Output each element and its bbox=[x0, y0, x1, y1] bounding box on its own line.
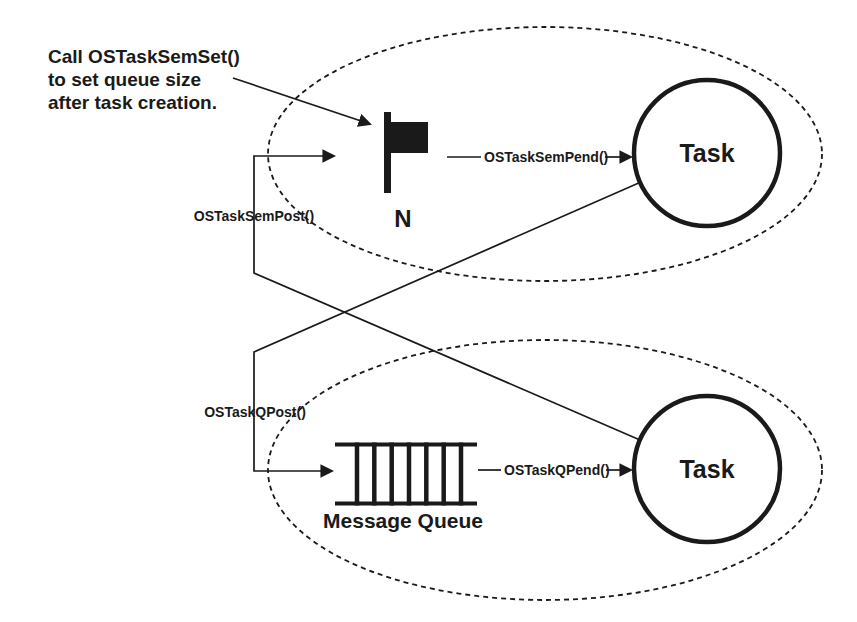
sem-post-connector bbox=[254, 156, 707, 469]
flag-body bbox=[391, 122, 428, 153]
flag-icon bbox=[384, 112, 428, 193]
diagram-svg: Call OSTaskSemSet() to set queue size af… bbox=[0, 0, 857, 622]
queue-slots bbox=[357, 443, 461, 506]
callout-text-line2: to set queue size bbox=[48, 69, 201, 90]
queue-post-connector bbox=[254, 153, 707, 471]
sem-post-label: OSTaskSemPost() bbox=[194, 208, 314, 224]
callout-arrow bbox=[233, 78, 370, 124]
top-task-label: Task bbox=[679, 139, 734, 167]
diagram: Call OSTaskSemSet() to set queue size af… bbox=[0, 0, 857, 622]
bottom-task-label: Task bbox=[679, 455, 734, 483]
message-queue-label: Message Queue bbox=[323, 509, 483, 532]
message-queue-icon bbox=[335, 443, 477, 506]
semaphore-count-label: N bbox=[394, 205, 411, 232]
callout-text-line1: Call OSTaskSemSet() bbox=[48, 46, 240, 67]
queue-post-label: OSTaskQPost() bbox=[204, 404, 306, 420]
flag-pole bbox=[384, 112, 391, 193]
queue-pend-label: OSTaskQPend() bbox=[504, 462, 610, 478]
sem-pend-label: OSTaskSemPend() bbox=[484, 149, 608, 165]
callout-text-line3: after task creation. bbox=[48, 92, 217, 113]
